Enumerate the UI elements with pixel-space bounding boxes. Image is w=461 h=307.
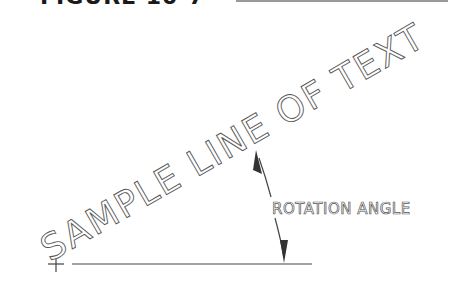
rotation-angle-diagram: SAMPLE LINE OF TEXT ROTATION ANGLE bbox=[0, 0, 461, 307]
rotation-angle-label: ROTATION ANGLE bbox=[272, 200, 411, 218]
sample-line-of-text: SAMPLE LINE OF TEXT bbox=[34, 15, 432, 269]
angle-arc-upper bbox=[259, 158, 271, 197]
arrowhead-lower-icon bbox=[280, 240, 288, 263]
